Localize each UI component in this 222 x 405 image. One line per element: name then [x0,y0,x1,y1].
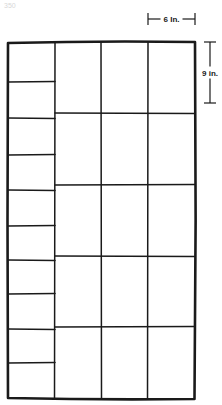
main-grid-row-line [55,327,195,328]
column-divider [148,42,149,399]
left-column-row-line [8,260,55,261]
panel-grid-diagram: 350 6 In. 9 in. [0,0,222,405]
grid-lines [8,42,195,399]
page-number: 350 [4,2,16,9]
main-grid-row-line [55,256,195,257]
main-grid-row-line [55,185,195,186]
main-grid-row-line [55,113,195,114]
left-column-row-line [8,329,55,330]
left-column-row-line [8,190,55,191]
width-dimension-label: 6 In. [163,15,179,24]
column-divider [55,42,56,399]
height-dimension-label: 9 in. [202,69,218,78]
column-divider [101,42,102,399]
left-column-row-line [8,118,55,119]
